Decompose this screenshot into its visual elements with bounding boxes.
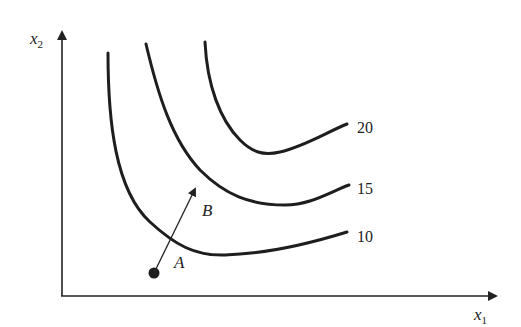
curve-level-10 <box>108 53 347 255</box>
curve-label-20: 20 <box>357 119 373 136</box>
curve-level-20 <box>205 42 347 154</box>
curve-label-10: 10 <box>357 228 373 245</box>
x-axis-label: x1 <box>473 305 487 326</box>
direction-vector <box>149 189 196 279</box>
y-axis-label: x2 <box>29 29 43 50</box>
point-b-label: B <box>202 201 213 220</box>
curve-level-15 <box>146 44 349 205</box>
axes: x2 x1 <box>29 29 496 326</box>
indifference-curve-diagram: x2 x1 10 15 20 A B <box>0 0 521 327</box>
curve-label-15: 15 <box>357 180 373 197</box>
curves <box>108 42 349 255</box>
point-a-label: A <box>173 253 185 272</box>
